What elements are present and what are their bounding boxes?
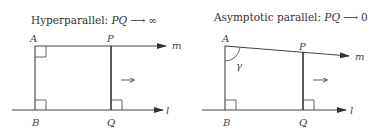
hyperparallel-title: Hyperparallel: PQ⟶∞: [31, 14, 157, 27]
hyperparallel-diagram: Hyperparallel: PQ⟶∞ A P m B Q l: [12, 14, 181, 128]
angle-gamma-arc: [225, 47, 240, 61]
label-Q: Q: [107, 117, 115, 128]
right-angle-icon: [35, 46, 46, 57]
label-P: P: [106, 33, 114, 44]
line-m: [225, 46, 349, 56]
label-Q: Q: [299, 117, 307, 128]
parallel-lines-figure: Hyperparallel: PQ⟶∞ A P m B Q l Asymptot…: [0, 0, 376, 133]
label-A: A: [29, 33, 37, 44]
label-l: l: [350, 105, 353, 116]
right-angle-icon: [35, 100, 46, 110]
label-P: P: [298, 41, 306, 52]
label-gamma: γ: [236, 60, 242, 71]
right-angle-icon: [111, 100, 122, 110]
label-B: B: [222, 117, 230, 128]
right-angle-icon: [303, 100, 314, 110]
right-angle-icon: [225, 100, 236, 110]
asymptotic-title: Asymptotic parallel: PQ⟶0: [213, 11, 368, 24]
label-m: m: [172, 40, 181, 51]
label-B: B: [31, 117, 39, 128]
label-m: m: [355, 51, 364, 62]
label-A: A: [221, 33, 229, 44]
asymptotic-parallel-diagram: Asymptotic parallel: PQ⟶0 A P m γ B Q l: [202, 11, 368, 128]
label-l: l: [166, 105, 169, 116]
